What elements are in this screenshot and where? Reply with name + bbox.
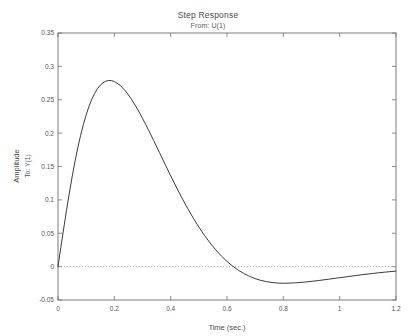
y-tick-label: 0 bbox=[50, 263, 54, 270]
step-response-curve bbox=[58, 80, 396, 283]
y-tick-label: 0.3 bbox=[45, 63, 54, 70]
y-tick-label: 0.35 bbox=[41, 29, 54, 36]
x-tick-label: 0 bbox=[56, 305, 60, 312]
x-tick-label: 1.2 bbox=[391, 305, 400, 312]
y-axis-label: Amplitude bbox=[12, 149, 21, 182]
x-tick-label: 0.8 bbox=[279, 305, 288, 312]
y-tick-label: 0.15 bbox=[41, 163, 54, 170]
x-tick-label: 1 bbox=[338, 305, 342, 312]
x-axis-label: Time (sec.) bbox=[208, 323, 246, 332]
y-tick-labels: -0.0500.050.10.150.20.250.30.35 bbox=[39, 29, 54, 303]
figure-canvas: Step Response From: U(1) 00.20.40.60.811… bbox=[0, 0, 416, 336]
axis-ticks bbox=[58, 33, 396, 300]
x-tick-label: 0.4 bbox=[166, 305, 175, 312]
y-axis-sublabel: To: Y(1) bbox=[24, 154, 32, 178]
x-tick-labels: 00.20.40.60.811.2 bbox=[56, 305, 401, 312]
x-tick-label: 0.6 bbox=[222, 305, 231, 312]
plot-area: 00.20.40.60.811.2 -0.0500.050.10.150.20.… bbox=[0, 0, 416, 336]
y-tick-label: 0.2 bbox=[45, 130, 54, 137]
y-tick-label: 0.05 bbox=[41, 230, 54, 237]
x-tick-label: 0.2 bbox=[110, 305, 119, 312]
y-tick-label: 0.25 bbox=[41, 96, 54, 103]
plot-frame bbox=[58, 33, 396, 300]
y-tick-label: -0.05 bbox=[39, 296, 54, 303]
y-tick-label: 0.1 bbox=[45, 196, 54, 203]
